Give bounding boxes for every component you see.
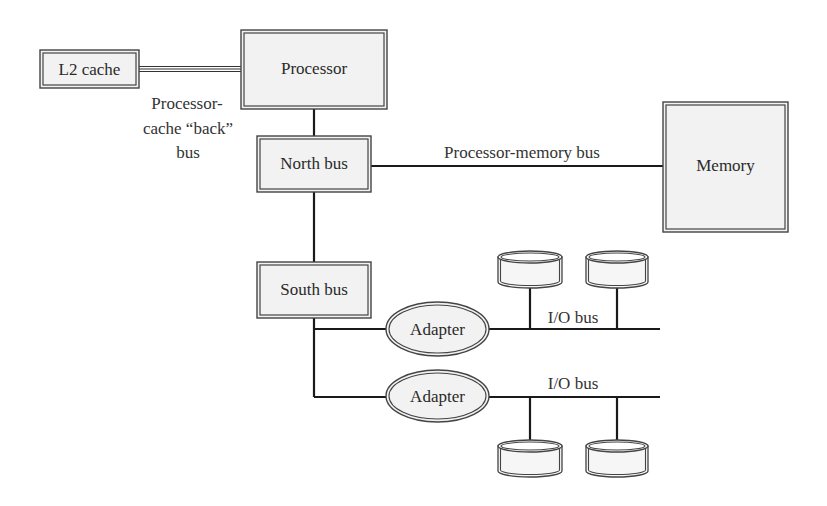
memory-node: Memory [663,102,788,232]
io-bus-1-label: I/O bus [548,308,599,327]
disk-icon [498,440,562,477]
computer-bus-architecture-diagram: L2 cache Processor North bus Memory Sout… [0,0,827,506]
adapter-2-node: Adapter [386,370,489,422]
disk-icon [586,440,648,477]
south-bus-label: South bus [280,280,348,299]
back-bus-caption-line-2: cache “back” [143,119,233,138]
adapter-2-label: Adapter [410,387,465,406]
io-bus-2-label: I/O bus [548,374,599,393]
l2-cache-node: L2 cache [40,50,139,88]
back-bus-connector [139,67,241,72]
disk-icon [586,251,648,288]
south-bus-node: South bus [257,262,371,318]
disk-icon [498,251,562,288]
back-bus-caption-line-3: bus [176,143,200,162]
north-bus-label: North bus [280,154,348,173]
north-bus-node: North bus [257,136,371,192]
l2-cache-label: L2 cache [59,60,121,79]
processor-node: Processor [241,30,387,109]
adapter-1-node: Adapter [386,302,489,356]
adapter-1-label: Adapter [410,320,465,339]
back-bus-caption-line-1: Processor- [151,94,223,113]
back-bus-caption: Processor- cache “back” bus [143,94,233,162]
memory-label: Memory [696,156,755,175]
processor-label: Processor [281,59,347,78]
processor-memory-bus-label: Processor-memory bus [444,143,600,162]
